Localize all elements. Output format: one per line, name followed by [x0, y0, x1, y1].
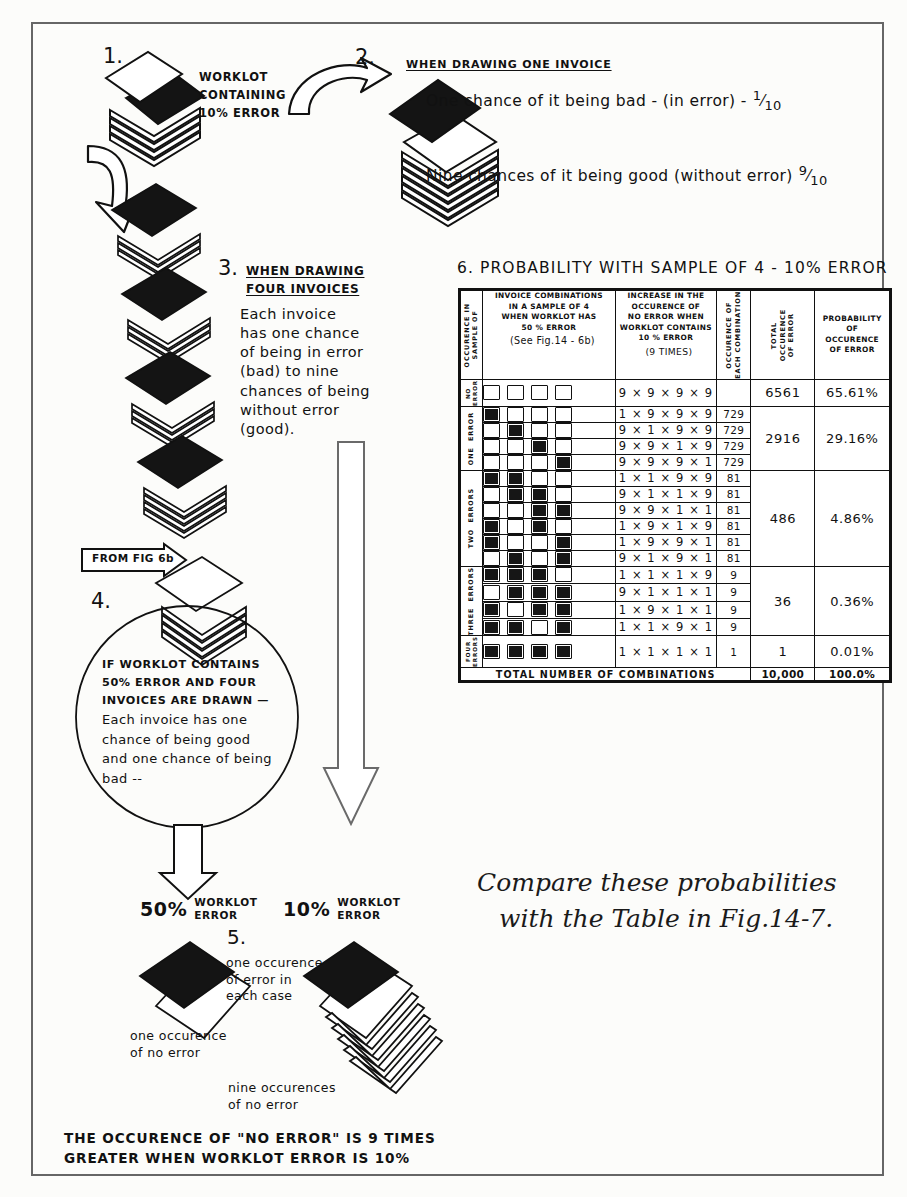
- col-header-increase-no-error: INCREASE IN THE OCCURENCE OF NO ERROR WH…: [615, 291, 717, 380]
- square-no-error-icon: [507, 439, 524, 454]
- square-no-error-icon: [531, 455, 548, 470]
- increase-product: 9 × 1 × 1 × 1: [615, 584, 717, 601]
- square-no-error-icon: [483, 385, 500, 400]
- step-4-bubble-line: IF WORKLOT CONTAINS: [102, 656, 282, 674]
- left-branch-pct: 50%: [140, 898, 187, 920]
- hdr-line: OF ERROR: [815, 345, 889, 356]
- occurence-each-combination: 9: [717, 566, 751, 583]
- footer-probability: 100.0%: [815, 668, 890, 681]
- square-error-icon: [531, 602, 548, 617]
- table-title: 6. PROBABILITY WITH SAMPLE OF 4 - 10% ER…: [457, 259, 888, 277]
- square-error-icon: [555, 551, 572, 566]
- occurence-each-combination: 81: [717, 534, 751, 550]
- table-header-row: OCCURENCE IN SAMPLE OF INVOICE COMBINATI…: [461, 291, 890, 380]
- increase-product: 9 × 1 × 9 × 1: [615, 550, 717, 566]
- left-branch-down-arrow-icon: [160, 823, 222, 903]
- total-occurence-of-error: 486: [751, 470, 815, 566]
- step-4-bubble-line: chance of being good: [102, 730, 282, 750]
- right-branch-label-line1: WORKLOT: [337, 896, 400, 909]
- step-3-body-line: without error: [240, 401, 370, 420]
- increase-product: 1 × 9 × 9 × 1: [615, 534, 717, 550]
- right-branch-pct: 10%: [283, 898, 330, 920]
- square-no-error-icon: [507, 455, 524, 470]
- closing-note: Compare these probabilities with the Tab…: [477, 865, 837, 938]
- step-2-number: 2.: [355, 45, 375, 69]
- bottom-conclusion-line2: GREATER WHEN WORKLOT ERROR IS 10%: [64, 1148, 436, 1168]
- step-2-heading: WHEN DRAWING ONE INVOICE: [406, 58, 612, 71]
- long-down-arrow-icon: [326, 438, 384, 838]
- square-error-icon: [483, 644, 500, 659]
- step-1-label-line3: 10% ERROR: [199, 105, 286, 123]
- step-3-heading-line2: FOUR INVOICES: [246, 280, 364, 298]
- col-header-total-occurence-label: TOTAL OCCURENCE OF ERROR: [770, 309, 796, 361]
- square-no-error-icon: [531, 423, 548, 438]
- closing-note-line1: Compare these probabilities: [477, 865, 837, 901]
- bottom-conclusion-line1: THE OCCURENCE OF "NO ERROR" IS 9 TIMES: [64, 1128, 436, 1148]
- step-5-left-caption: one occurence of no error: [130, 1028, 227, 1061]
- square-error-icon: [531, 585, 548, 600]
- total-occurence-of-error: 1: [751, 636, 815, 668]
- step-2-line-2-text: Nine chances of it being good (without e…: [426, 167, 793, 185]
- invoice-combination-squares: [483, 502, 615, 518]
- step-5-right-caption: nine occurences of no error: [228, 1080, 336, 1113]
- square-no-error-icon: [531, 620, 548, 635]
- invoice-combination-squares: [483, 438, 615, 454]
- step-5-left-caption-line: of no error: [130, 1045, 227, 1062]
- square-no-error-icon: [507, 535, 524, 550]
- increase-product: 9 × 9 × 1 × 9: [615, 438, 717, 454]
- square-error-icon: [531, 439, 548, 454]
- occurence-each-combination: 729: [717, 438, 751, 454]
- col-header-occurence-in-sample: OCCURENCE IN SAMPLE OF: [461, 291, 483, 380]
- step-5-right-stack: [300, 918, 470, 1093]
- square-no-error-icon: [507, 519, 524, 534]
- hdr-line: INVOICE COMBINATIONS: [483, 291, 614, 302]
- step-3-number: 3.: [218, 256, 238, 280]
- occurence-each-combination: 729: [717, 422, 751, 438]
- square-no-error-icon: [555, 439, 572, 454]
- fraction-denominator: 10: [810, 173, 827, 188]
- increase-product: 1 × 1 × 9 × 9: [615, 470, 717, 486]
- step-3-body-line: chances of being: [240, 382, 370, 401]
- square-no-error-icon: [555, 487, 572, 502]
- square-no-error-icon: [483, 487, 500, 502]
- closing-note-line2: with the Table in Fig.14-7.: [477, 901, 837, 937]
- square-error-icon: [507, 487, 524, 502]
- occurence-each-combination: 9: [717, 601, 751, 618]
- square-error-icon: [507, 585, 524, 600]
- occurence-each-combination: 9: [717, 619, 751, 636]
- square-error-icon: [507, 471, 524, 486]
- square-error-icon: [483, 471, 500, 486]
- square-no-error-icon: [483, 455, 500, 470]
- step-5-right-caption-line: of no error: [228, 1097, 336, 1114]
- step-3-body-line: (good).: [240, 420, 370, 439]
- step-3-body: Each invoice has one chance of being in …: [240, 305, 370, 439]
- probability-of-occurence-of-error: 0.36%: [815, 566, 890, 636]
- step-1-label: WORKLOT CONTAINING 10% ERROR: [199, 69, 286, 122]
- left-branch-label-line1: WORKLOT: [194, 896, 257, 909]
- square-error-icon: [507, 620, 524, 635]
- invoice-combination-squares: [483, 534, 615, 550]
- hdr-line: OCCURENCE OF: [616, 302, 717, 313]
- probability-of-occurence-of-error: 29.16%: [815, 406, 890, 470]
- square-error-icon: [483, 620, 500, 635]
- total-occurence-of-error: 36: [751, 566, 815, 636]
- invoice-combination-squares: [483, 470, 615, 486]
- increase-product: 1 × 9 × 1 × 1: [615, 601, 717, 618]
- hdr-line: IN A SAMPLE OF 4: [483, 302, 614, 313]
- row-group-label: THREE ERRORS: [461, 566, 483, 636]
- square-error-icon: [531, 644, 548, 659]
- square-no-error-icon: [531, 385, 548, 400]
- step-5-number: 5.: [227, 925, 246, 949]
- square-no-error-icon: [531, 471, 548, 486]
- square-error-icon: [483, 535, 500, 550]
- invoice-combination-squares: [483, 584, 615, 601]
- occurence-each-combination: 729: [717, 454, 751, 470]
- square-error-icon: [555, 585, 572, 600]
- occurence-each-combination: [717, 379, 751, 406]
- invoice-combination-squares: [483, 601, 615, 618]
- square-no-error-icon: [483, 585, 500, 600]
- col-header-occurence-each-combination-label: OCCURENCE OF EACH COMBINATION: [725, 291, 742, 379]
- hdr-line: WORKLOT CONTAINS: [616, 323, 717, 334]
- hdr-line: 10 % ERROR: [616, 333, 717, 344]
- square-error-icon: [531, 567, 548, 582]
